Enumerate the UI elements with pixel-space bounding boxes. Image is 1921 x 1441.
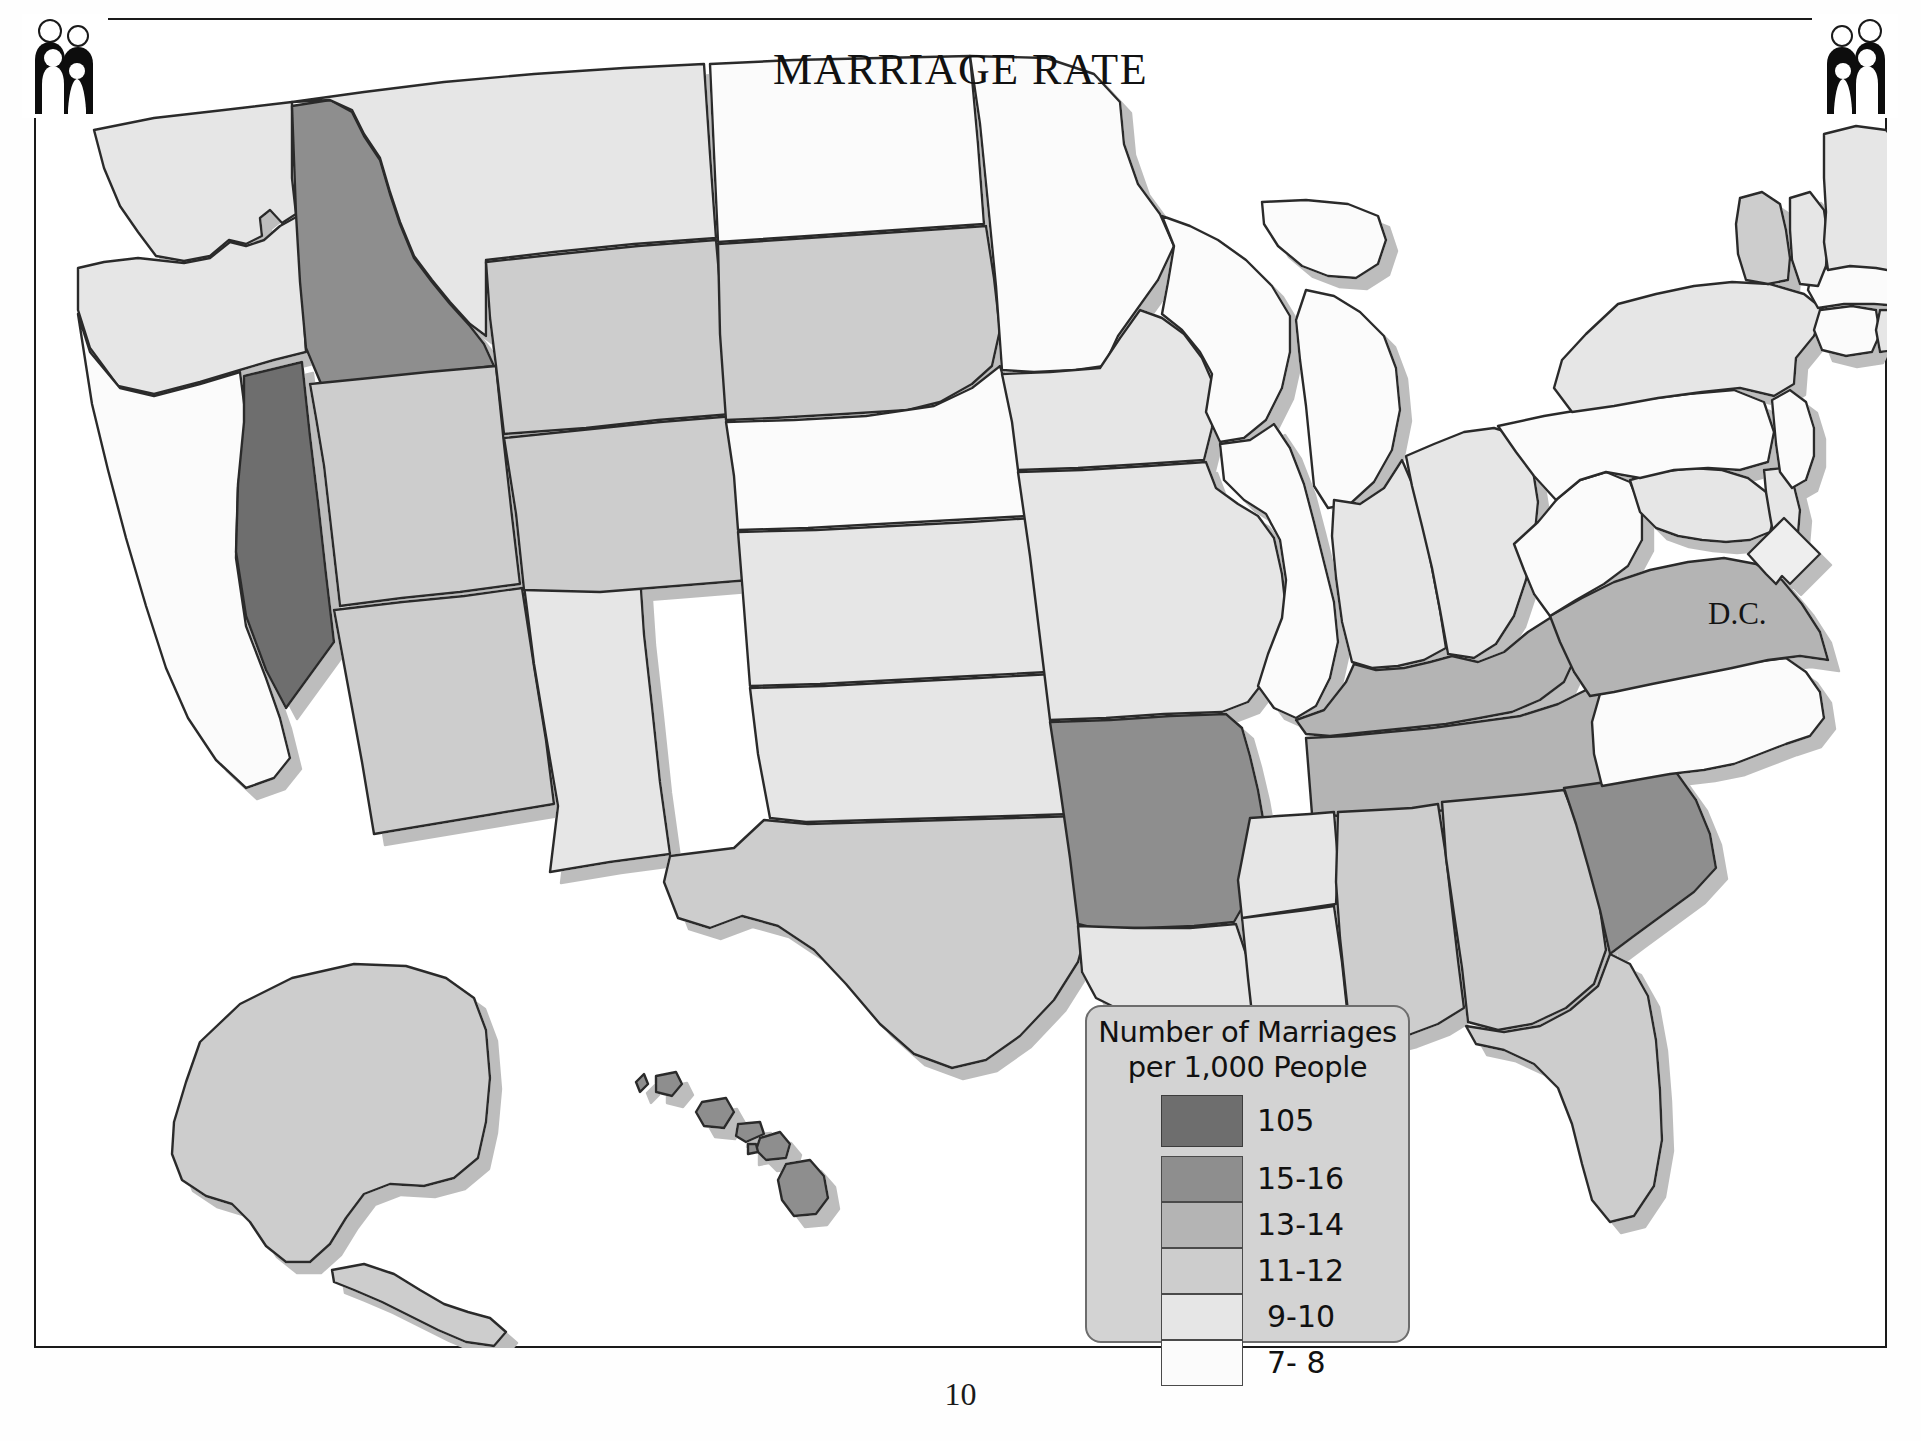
legend-swatch-105 — [1161, 1095, 1243, 1147]
legend-label-9-10: 9-10 — [1267, 1299, 1335, 1334]
state-rhode-island — [1876, 310, 1887, 352]
legend-label-13-14: 13-14 — [1257, 1207, 1344, 1242]
legend-swatch-9-10 — [1161, 1294, 1243, 1340]
state-new-mexico — [524, 574, 670, 872]
legend-title-line2: per 1,000 People — [1087, 1050, 1408, 1085]
page-title: MARRIAGE RATE — [0, 44, 1921, 95]
page-number: 10 — [0, 1376, 1921, 1413]
legend-row-7-8: 7- 8 — [1087, 1340, 1408, 1386]
legend-label-11-12: 11-12 — [1257, 1253, 1344, 1288]
state-arizona — [334, 588, 554, 834]
legend-entries: 105 15-16 13-14 11-12 9-10 7- 8 — [1087, 1095, 1408, 1386]
legend-swatch-15-16 — [1161, 1156, 1243, 1202]
legend-row-13-14: 13-14 — [1087, 1202, 1408, 1248]
state-connecticut — [1814, 306, 1880, 356]
state-new-hampshire — [1790, 192, 1828, 286]
state-utah — [310, 366, 520, 606]
dc-label: D.C. — [1708, 596, 1767, 632]
legend-label-15-16: 15-16 — [1257, 1161, 1344, 1196]
state-arkansas — [1050, 714, 1264, 928]
legend-row-105: 105 — [1087, 1095, 1408, 1147]
legend-swatch-11-12 — [1161, 1248, 1243, 1294]
legend-swatch-7-8 — [1161, 1340, 1243, 1386]
state-wyoming — [486, 240, 732, 434]
map-legend: Number of Marriages per 1,000 People 105… — [1085, 1005, 1410, 1343]
map-page: MARRIAGE RATE — [0, 0, 1921, 1441]
legend-title: Number of Marriages per 1,000 People — [1087, 1007, 1408, 1085]
state-hawaii — [636, 1072, 828, 1216]
state-texas — [664, 816, 1090, 1068]
legend-label-7-8: 7- 8 — [1267, 1345, 1326, 1380]
family-silhouette-icon-left — [22, 14, 108, 118]
state-colorado — [504, 416, 750, 592]
legend-swatch-13-14 — [1161, 1202, 1243, 1248]
state-oklahoma — [750, 674, 1072, 822]
state-alaska — [172, 964, 506, 1346]
legend-title-line1: Number of Marriages — [1087, 1015, 1408, 1050]
us-choropleth-map — [34, 18, 1887, 1348]
state-maine — [1824, 126, 1887, 272]
legend-row-15-16: 15-16 — [1087, 1156, 1408, 1202]
legend-label-105: 105 — [1257, 1103, 1314, 1138]
family-silhouette-icon-right — [1812, 14, 1898, 118]
state-south-dakota — [718, 226, 1000, 420]
state-maryland — [1630, 468, 1776, 542]
legend-row-9-10: 9-10 — [1087, 1294, 1408, 1340]
legend-row-11-12: 11-12 — [1087, 1248, 1408, 1294]
state-vermont — [1736, 192, 1790, 284]
state-kansas — [738, 518, 1048, 686]
